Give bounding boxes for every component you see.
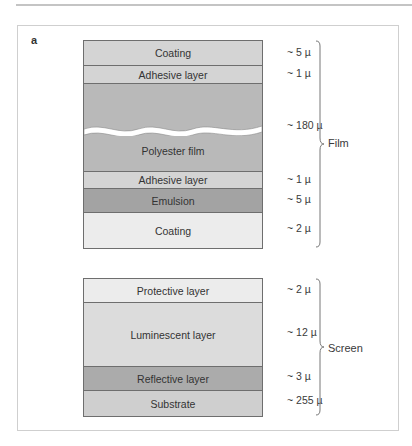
screen-layer-reflective: Reflective layer xyxy=(84,367,262,391)
thickness-label: ~ 2 µ xyxy=(287,283,311,295)
layer-label: Adhesive layer xyxy=(139,174,208,186)
screen-layer-luminescent: Luminescent layer xyxy=(84,303,262,367)
film-layer-emulsion: Emulsion xyxy=(84,189,262,213)
thickness-label: ~ 5 µ xyxy=(287,193,311,205)
layer-label: Polyester film xyxy=(141,145,204,157)
screen-stack: Protective layer Luminescent layer Refle… xyxy=(83,278,263,417)
film-layer-coating-bottom: Coating xyxy=(84,213,262,248)
layer-label: Substrate xyxy=(151,398,196,410)
screen-layer-substrate: Substrate xyxy=(84,391,262,416)
film-layer-adhesive-top: Adhesive layer xyxy=(84,66,262,84)
thickness-label: ~ 12 µ xyxy=(287,326,317,338)
screen-group-label: Screen xyxy=(328,342,363,354)
thickness-label: ~ 5 µ xyxy=(287,46,311,58)
film-stack: Coating Adhesive layer Polyester film Ad… xyxy=(83,40,263,249)
panel-label: a xyxy=(31,34,37,46)
film-layer-adhesive-bottom: Adhesive layer xyxy=(84,172,262,189)
screen-layer-protective: Protective layer xyxy=(84,279,262,303)
thickness-label: ~ 1 µ xyxy=(287,173,311,185)
layer-label: Luminescent layer xyxy=(130,329,215,341)
break-wave-icon xyxy=(84,122,262,136)
screen-brace-icon xyxy=(314,278,326,416)
thickness-label: ~ 1 µ xyxy=(287,67,311,79)
thickness-label: ~ 3 µ xyxy=(287,370,311,382)
film-brace-icon xyxy=(314,40,326,248)
layer-label: Protective layer xyxy=(137,285,209,297)
layer-label: Emulsion xyxy=(151,195,194,207)
thickness-label: ~ 2 µ xyxy=(287,222,311,234)
header-rule xyxy=(16,4,412,6)
film-layer-coating-top: Coating xyxy=(84,41,262,66)
film-group-label: Film xyxy=(328,137,349,149)
layer-label: Coating xyxy=(155,47,191,59)
layer-label: Reflective layer xyxy=(137,373,209,385)
film-layer-polyester: Polyester film xyxy=(84,84,262,172)
layer-label: Adhesive layer xyxy=(139,69,208,81)
layer-label: Coating xyxy=(155,225,191,237)
